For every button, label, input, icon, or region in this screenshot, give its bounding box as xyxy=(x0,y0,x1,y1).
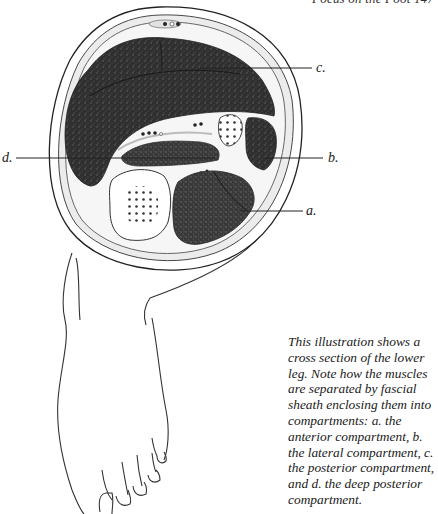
label-d: d. xyxy=(2,151,13,165)
cross-section xyxy=(49,7,302,270)
foot-outline xyxy=(58,236,260,514)
tibia-marrow xyxy=(124,186,158,224)
figure-caption: This illustration shows a cross section … xyxy=(288,334,438,508)
label-c: c. xyxy=(316,61,326,75)
label-a: a. xyxy=(306,204,317,218)
label-b: b. xyxy=(328,151,339,165)
